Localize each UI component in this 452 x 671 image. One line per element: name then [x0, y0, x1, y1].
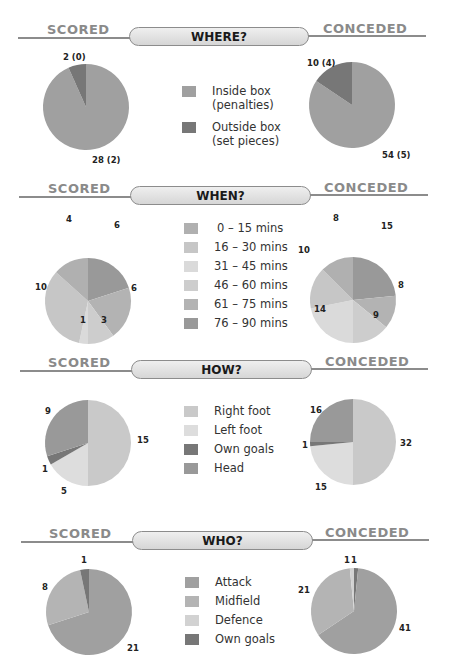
legend-label: Own goals: [215, 632, 275, 646]
who-conceded-value-attack: 41: [399, 623, 411, 633]
legend-swatch: [185, 596, 199, 607]
who-conceded-value-own-goals: 1: [351, 555, 357, 565]
who-conceded-value-defence: 1: [344, 555, 350, 565]
who-conceded-value-midfield: 21: [298, 585, 310, 595]
legend-label: Midfield: [215, 594, 260, 608]
legend-item-midfield: Midfield: [185, 594, 275, 608]
legend-label: Attack: [215, 575, 252, 589]
who-legend: Attack Midfield Defence Own goals: [185, 575, 275, 646]
legend-swatch: [185, 615, 199, 626]
who-conceded-pie: 41 21 1 1: [0, 0, 452, 671]
legend-label: Defence: [215, 613, 263, 627]
legend-item-defence: Defence: [185, 613, 275, 627]
legend-item-own-goals: Own goals: [185, 632, 275, 646]
legend-item-attack: Attack: [185, 575, 275, 589]
legend-swatch: [185, 634, 199, 645]
legend-swatch: [185, 577, 199, 588]
